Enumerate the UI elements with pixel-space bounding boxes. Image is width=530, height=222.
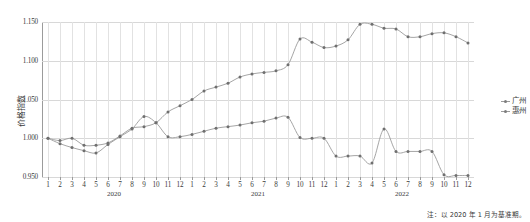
data-point	[383, 27, 386, 30]
legend-label-guangzhou: 广州	[512, 96, 526, 106]
x-axis-tick-mark	[84, 177, 85, 180]
data-point	[431, 32, 434, 35]
legend-item-huizhou[interactable]: 惠州	[501, 106, 526, 116]
data-point	[371, 162, 374, 165]
data-point	[347, 155, 350, 158]
price-index-chart: 价格指数 0.9501.0001.0501.1001.150 123456789…	[0, 0, 530, 222]
x-axis-tick-label: 7	[406, 181, 410, 189]
data-point	[59, 139, 62, 142]
data-point	[455, 35, 458, 38]
x-axis-tick-mark	[372, 177, 373, 180]
data-point	[203, 89, 206, 92]
x-axis-tick-mark	[444, 177, 445, 180]
x-axis-tick-mark	[276, 177, 277, 180]
x-axis-year-label: 2021	[251, 190, 265, 198]
data-point	[251, 121, 254, 124]
data-point	[167, 110, 170, 113]
x-axis-tick-mark	[168, 177, 169, 180]
data-point	[311, 137, 314, 140]
legend-marker-icon	[501, 108, 510, 115]
x-axis-tick-mark	[408, 177, 409, 180]
data-point	[239, 124, 242, 127]
x-axis-tick-mark	[108, 177, 109, 180]
data-point	[287, 116, 290, 119]
x-axis-tick-mark	[48, 177, 49, 180]
data-point	[419, 35, 422, 38]
y-axis-tick-label: 1.000	[23, 134, 38, 142]
x-axis-tick-mark	[120, 177, 121, 180]
x-axis-tick-mark	[72, 177, 73, 180]
data-point	[347, 38, 350, 41]
data-point	[95, 151, 98, 154]
data-point	[443, 31, 446, 34]
legend: 广州 惠州	[501, 96, 526, 116]
data-point	[107, 143, 110, 146]
x-axis-tick-label: 11	[309, 181, 316, 189]
x-axis-tick-label: 5	[382, 181, 386, 189]
x-axis-tick-mark	[420, 177, 421, 180]
x-axis-tick-mark	[132, 177, 133, 180]
data-point	[275, 117, 278, 120]
x-axis-tick-label: 7	[118, 181, 122, 189]
x-axis-tick-mark	[312, 177, 313, 180]
x-axis-tick-mark	[396, 177, 397, 180]
data-point	[83, 149, 86, 152]
data-point	[275, 69, 278, 72]
data-point	[215, 86, 218, 89]
legend-label-huizhou: 惠州	[512, 106, 526, 116]
x-axis-tick-mark	[384, 177, 385, 180]
x-axis-tick-mark	[432, 177, 433, 180]
x-axis-tick-mark	[300, 177, 301, 180]
data-point	[71, 137, 74, 140]
x-axis-tick-label: 6	[106, 181, 110, 189]
y-axis-tick-label: 1.150	[23, 18, 38, 26]
data-point	[431, 150, 434, 153]
data-point	[467, 41, 470, 44]
x-axis-tick-mark	[324, 177, 325, 180]
data-point	[299, 136, 302, 139]
legend-item-guangzhou[interactable]: 广州	[501, 96, 526, 106]
x-axis-tick-mark	[360, 177, 361, 180]
x-axis-year-label: 2020	[107, 190, 121, 198]
data-point	[155, 121, 158, 124]
data-point	[179, 104, 182, 107]
x-axis-tick-label: 4	[370, 181, 374, 189]
x-axis-tick-label: 2	[346, 181, 350, 189]
data-point	[179, 135, 182, 138]
data-point	[143, 125, 146, 128]
x-axis-tick-label: 4	[226, 181, 230, 189]
data-point	[299, 38, 302, 41]
data-point	[95, 144, 98, 147]
x-axis-tick-mark	[348, 177, 349, 180]
data-point	[131, 127, 134, 130]
data-point	[359, 23, 362, 26]
x-axis-tick-mark	[60, 177, 61, 180]
x-axis-tick-mark	[216, 177, 217, 180]
y-axis-tick-label: 1.100	[23, 57, 38, 65]
x-axis-tick-label: 8	[130, 181, 134, 189]
x-axis-tick-label: 12	[176, 181, 183, 189]
x-axis-tick-mark	[264, 177, 265, 180]
x-axis-tick-mark	[96, 177, 97, 180]
data-point	[335, 155, 338, 158]
data-point	[263, 71, 266, 74]
x-axis-tick-label: 5	[238, 181, 242, 189]
x-axis-tick-label: 11	[453, 181, 460, 189]
data-point	[395, 27, 398, 30]
data-point	[251, 72, 254, 75]
y-axis-tick-label: 0.950	[23, 173, 38, 181]
data-point	[323, 137, 326, 140]
data-point	[59, 142, 62, 145]
y-axis-tick-label: 1.050	[23, 96, 38, 104]
x-axis-tick-label: 1	[46, 181, 50, 189]
x-axis-tick-mark	[252, 177, 253, 180]
x-axis-tick-label: 2	[58, 181, 62, 189]
x-axis-tick-label: 10	[296, 181, 303, 189]
x-axis-tick-label: 10	[152, 181, 159, 189]
data-point	[335, 45, 338, 48]
series-line	[48, 23, 468, 146]
x-axis-tick-label: 6	[250, 181, 254, 189]
x-axis-tick-label: 9	[430, 181, 434, 189]
x-axis-tick-label: 10	[440, 181, 447, 189]
x-axis-tick-label: 1	[190, 181, 194, 189]
